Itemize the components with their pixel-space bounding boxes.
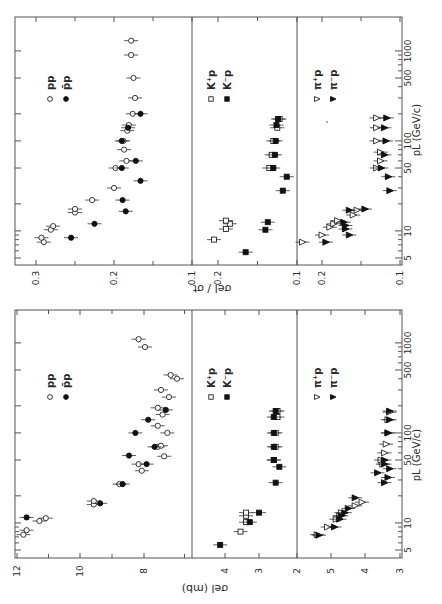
- data-point-circle: [122, 147, 127, 152]
- data-point-circle: [111, 185, 116, 190]
- ratio-figure: 510501005001000 0.30.20.10.20.10.20.1 pp…: [15, 17, 422, 295]
- data-point-square: [263, 227, 268, 232]
- data-point-square: [273, 480, 278, 485]
- legend-marker: [64, 97, 69, 102]
- data-point-circle: [43, 516, 48, 521]
- legend-label: K⁻p: [222, 368, 233, 388]
- legend-label: p̄p: [61, 76, 72, 90]
- ratio-pl-label: pL (GeV/c): [411, 104, 422, 157]
- legend-label: π⁻p: [328, 70, 339, 90]
- value-tick-label: 5: [326, 568, 336, 574]
- data-point-circle: [124, 158, 129, 163]
- data-point-square: [272, 152, 277, 157]
- pl-tick-label: 500: [403, 361, 413, 378]
- data-point-circle: [98, 501, 103, 506]
- data-point-triangle: [346, 207, 353, 213]
- data-point-circle: [158, 443, 163, 448]
- data-point-triangle: [385, 474, 392, 480]
- data-point-circle: [144, 462, 149, 467]
- data-point-circle: [69, 235, 74, 240]
- data-point-square: [271, 430, 276, 435]
- value-tick-label: 4: [220, 568, 230, 574]
- ratio-value-ticks: 0.30.20.10.20.10.20.1: [31, 17, 405, 285]
- legend-label: K⁺p: [206, 70, 217, 90]
- data-point-square: [276, 117, 281, 122]
- stray-mark: [326, 121, 328, 123]
- data-point-triangle: [316, 532, 323, 538]
- sigma-axis-title: σel (mb): [182, 582, 229, 595]
- legend-marker: [315, 395, 321, 400]
- data-point-triangle: [300, 239, 307, 245]
- data-point-circle: [133, 430, 138, 435]
- data-point-triangle: [352, 495, 359, 501]
- data-point-square: [271, 166, 276, 171]
- pl-tick-label: 5: [403, 547, 413, 553]
- sigma-plot-frame: [15, 310, 402, 558]
- data-point-triangle: [381, 450, 388, 456]
- data-point-circle: [136, 337, 141, 342]
- data-point-triangle: [384, 115, 391, 121]
- sigma-pl-label: pL (GeV/c): [411, 429, 422, 482]
- sigma-pl-ticks: 510501005001000: [15, 331, 413, 553]
- data-point-triangle: [385, 174, 392, 180]
- data-point-circle: [162, 454, 167, 459]
- data-point-circle: [123, 209, 128, 214]
- data-point-square: [212, 237, 217, 242]
- data-point-circle: [158, 387, 163, 392]
- data-point-triangle: [359, 499, 366, 505]
- data-point-triangle: [378, 165, 385, 171]
- legend-marker: [209, 97, 213, 101]
- data-point-square: [271, 444, 276, 449]
- legend-marker: [64, 395, 69, 400]
- data-point-triangle: [385, 430, 392, 436]
- data-point-triangle: [387, 466, 394, 472]
- data-point-square: [271, 458, 276, 463]
- data-point-circle: [72, 206, 77, 211]
- data-point-square: [271, 415, 276, 420]
- pl-tick-label: 500: [403, 69, 413, 86]
- data-point-circle: [120, 481, 125, 486]
- legend-label: π⁻p: [328, 368, 339, 388]
- legend-marker: [315, 97, 321, 102]
- legend-marker: [331, 97, 337, 102]
- data-point-triangle: [381, 457, 388, 463]
- data-point-triangle: [375, 470, 382, 476]
- legend-marker: [209, 395, 213, 399]
- data-point-circle: [129, 38, 134, 43]
- ratio-axis-title: σel / σt: [192, 282, 231, 295]
- data-point-triangle: [323, 239, 330, 245]
- figure: 510501005001000 0.30.20.10.20.10.20.1 pp…: [0, 0, 442, 604]
- data-point-circle: [166, 394, 171, 399]
- data-point-square: [284, 174, 289, 179]
- value-tick-label: 0.1: [292, 271, 302, 285]
- data-point-circle: [138, 111, 143, 116]
- value-tick-label: 0.1: [395, 271, 405, 285]
- data-point-triangle: [374, 115, 381, 121]
- data-point-square: [223, 218, 228, 223]
- pl-tick-label: 10: [403, 225, 413, 237]
- data-point-triangle: [383, 138, 390, 144]
- data-point-circle: [133, 158, 138, 163]
- pl-tick-label: 1000: [403, 331, 413, 354]
- data-point-circle: [24, 515, 29, 520]
- data-point-square: [257, 510, 262, 515]
- data-point-triangle: [335, 218, 342, 224]
- data-point-circle: [155, 423, 160, 428]
- data-point-circle: [168, 372, 173, 377]
- data-point-square: [218, 542, 223, 547]
- data-point-triangle: [331, 524, 338, 530]
- value-tick-label: 4: [360, 568, 370, 574]
- legend-label: K⁺p: [206, 368, 217, 388]
- data-point-circle: [139, 468, 144, 473]
- sigma-value-ticks: 12108432543: [12, 310, 405, 577]
- legend-marker: [48, 395, 53, 400]
- data-point-square: [244, 510, 249, 515]
- legend-label: p̄p: [61, 374, 72, 388]
- data-point-square: [280, 188, 285, 193]
- legend-label: π⁺p: [312, 70, 323, 90]
- value-tick-label: 0.2: [317, 271, 327, 285]
- data-point-square: [273, 409, 278, 414]
- data-point-triangle: [381, 152, 388, 158]
- data-point-square: [274, 123, 279, 128]
- data-point-triangle: [346, 232, 353, 238]
